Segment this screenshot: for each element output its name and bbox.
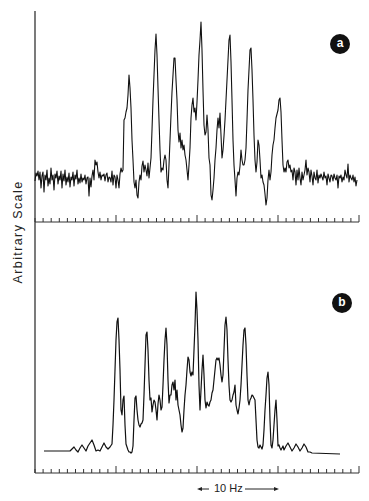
x-axis-ticks-panel-b bbox=[35, 466, 359, 473]
arrow-left-icon bbox=[197, 487, 202, 491]
arrow-right-icon bbox=[274, 487, 279, 491]
nmr-spectra-figure bbox=[0, 0, 369, 501]
y-axis-label: Arbitrary Scale bbox=[11, 181, 25, 284]
x-axis-ticks-panel-a bbox=[35, 215, 359, 222]
panel-badge-a: a bbox=[330, 34, 350, 54]
panel-badge-b: b bbox=[332, 293, 352, 313]
scale-bar-label: 10 Hz bbox=[212, 482, 245, 494]
spectrum-trace-b bbox=[44, 292, 340, 454]
spectrum-trace-a bbox=[35, 22, 357, 205]
